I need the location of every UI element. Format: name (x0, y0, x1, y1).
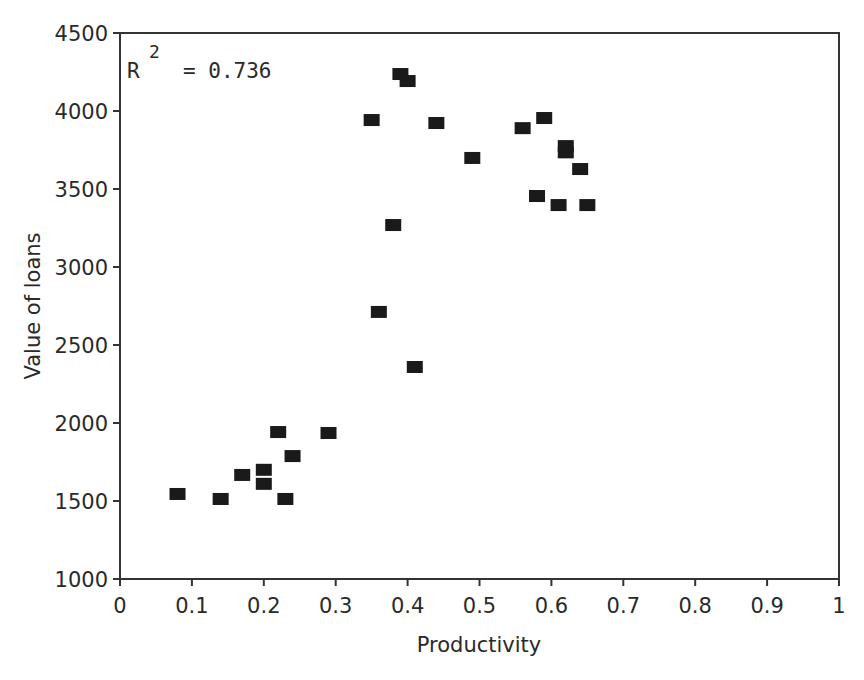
x-tick-label: 0.9 (750, 594, 783, 618)
data-point (213, 493, 229, 505)
x-axis: 00.10.20.30.40.50.60.70.80.91 (113, 579, 845, 618)
x-axis-title: Productivity (417, 633, 542, 657)
data-point (572, 163, 588, 175)
y-tick-label: 1500 (55, 490, 108, 514)
x-tick-label: 0.4 (391, 594, 424, 618)
x-tick-label: 0.5 (463, 594, 496, 618)
y-tick-label: 4500 (55, 22, 108, 46)
data-point (464, 152, 480, 164)
y-axis-title: Value of loans (21, 232, 45, 379)
x-tick-label: 0.3 (319, 594, 352, 618)
data-point (234, 469, 250, 481)
y-tick-label: 2500 (55, 334, 108, 358)
r-squared-superscript: 2 (149, 41, 160, 62)
data-point (385, 219, 401, 231)
data-point (285, 450, 301, 462)
x-tick-label: 0.7 (607, 594, 640, 618)
data-points (170, 68, 596, 505)
x-tick-label: 0.8 (678, 594, 711, 618)
data-point (428, 117, 444, 129)
y-tick-label: 4000 (55, 100, 108, 124)
data-point (407, 361, 423, 373)
y-tick-label: 2000 (55, 412, 108, 436)
data-point (270, 426, 286, 438)
r-squared-label: R (127, 59, 140, 83)
x-tick-label: 0.1 (175, 594, 208, 618)
data-point (529, 190, 545, 202)
y-axis: 10001500200025003000350040004500 (55, 22, 120, 592)
data-point (371, 306, 387, 318)
x-tick-label: 0.2 (247, 594, 280, 618)
data-point (400, 75, 416, 87)
x-tick-label: 1 (832, 594, 845, 618)
data-point (364, 114, 380, 126)
y-tick-label: 3500 (55, 178, 108, 202)
data-point (558, 146, 574, 158)
data-point (170, 488, 186, 500)
x-tick-label: 0 (113, 594, 126, 618)
data-point (515, 122, 531, 134)
r-squared-value: = 0.736 (183, 59, 272, 83)
data-point (256, 478, 272, 490)
y-tick-label: 1000 (55, 568, 108, 592)
data-point (277, 493, 293, 505)
data-point (256, 464, 272, 476)
data-point (321, 427, 337, 439)
x-tick-label: 0.6 (535, 594, 568, 618)
data-point (551, 199, 567, 211)
data-point (536, 112, 552, 124)
data-point (579, 199, 595, 211)
scatter-chart: 10001500200025003000350040004500 00.10.2… (0, 0, 864, 680)
y-tick-label: 3000 (55, 256, 108, 280)
